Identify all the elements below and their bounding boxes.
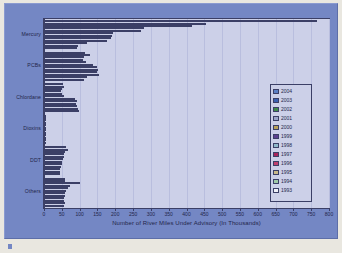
- x-tick-label-0: 0: [43, 211, 46, 217]
- x-tick-label-300: 300: [147, 211, 155, 217]
- y-axis-label-ddt: DDT: [5, 157, 41, 163]
- legend-item-1996[interactable]: 1996: [273, 159, 309, 168]
- legend-swatch-icon: [273, 98, 279, 103]
- x-tick-label-250: 250: [129, 211, 137, 217]
- legend-item-1998[interactable]: 1998: [273, 141, 309, 150]
- legend-swatch-icon: [273, 134, 279, 139]
- legend-swatch-icon: [273, 125, 279, 130]
- legend-label: 2004: [281, 89, 292, 94]
- legend-item-2000[interactable]: 2000: [273, 123, 309, 132]
- legend-label: 2003: [281, 98, 292, 103]
- x-axis-title: Number of River Miles Under Advisory (In…: [43, 220, 330, 226]
- x-axis-ticks: 0501001502002503003504004505005506006507…: [43, 209, 330, 219]
- bar: [44, 142, 46, 144]
- y-axis-label-chlordane: Chlordane: [5, 94, 41, 100]
- bar: [44, 205, 64, 207]
- y-axis-category-labels: MercuryPCBsChlordaneDioxinsDDTOthers: [5, 18, 41, 209]
- legend-swatch-icon: [273, 170, 279, 175]
- legend-swatch-icon: [273, 143, 279, 148]
- legend-swatch-icon: [273, 116, 279, 121]
- legend-swatch-icon: [273, 107, 279, 112]
- x-tick-label-100: 100: [75, 211, 83, 217]
- legend-label: 2002: [281, 107, 292, 112]
- legend-label: 1994: [281, 179, 292, 184]
- x-tick-label-600: 600: [254, 211, 262, 217]
- y-axis-label-others: Others: [5, 188, 41, 194]
- legend-item-2004[interactable]: 2004: [273, 87, 309, 96]
- x-tick-label-550: 550: [236, 211, 244, 217]
- legend-item-2001[interactable]: 2001: [273, 114, 309, 123]
- legend-label: 1997: [281, 152, 292, 157]
- legend-swatch-icon: [273, 89, 279, 94]
- y-axis-label-pcbs: PCBs: [5, 62, 41, 68]
- legend-swatch-icon: [273, 152, 279, 157]
- chart-legend: 2004200320022001200019991998199719961995…: [270, 84, 312, 202]
- legend-item-1995[interactable]: 1995: [273, 168, 309, 177]
- y-axis-label-dioxins: Dioxins: [5, 125, 41, 131]
- legend-item-1993[interactable]: 1993: [273, 186, 309, 195]
- gridline-800: [329, 19, 330, 208]
- legend-swatch-icon: [273, 179, 279, 184]
- legend-swatch-icon: [273, 188, 279, 193]
- legend-item-1997[interactable]: 1997: [273, 150, 309, 159]
- x-tick-label-750: 750: [307, 211, 315, 217]
- x-tick-label-350: 350: [165, 211, 173, 217]
- legend-item-1994[interactable]: 1994: [273, 177, 309, 186]
- bar: [44, 79, 84, 81]
- x-tick-label-700: 700: [289, 211, 297, 217]
- legend-item-2003[interactable]: 2003: [273, 96, 309, 105]
- legend-label: 2001: [281, 116, 292, 121]
- legend-label: 1999: [281, 134, 292, 139]
- legend-item-2002[interactable]: 2002: [273, 105, 309, 114]
- bar-group: [44, 51, 329, 83]
- y-axis-label-mercury: Mercury: [5, 31, 41, 37]
- x-tick-label-50: 50: [59, 211, 65, 217]
- chart-figure: MercuryPCBsChlordaneDioxinsDDTOthers 050…: [4, 3, 338, 239]
- legend-label: 1996: [281, 161, 292, 166]
- legend-item-1999[interactable]: 1999: [273, 132, 309, 141]
- legend-label: 1993: [281, 188, 292, 193]
- bar: [44, 173, 60, 175]
- bar-group: [44, 19, 329, 51]
- x-tick-label-450: 450: [200, 211, 208, 217]
- bar: [44, 47, 77, 49]
- legend-swatch-icon: [273, 161, 279, 166]
- x-tick-label-650: 650: [271, 211, 279, 217]
- legend-label: 1995: [281, 170, 292, 175]
- x-tick-label-800: 800: [325, 211, 333, 217]
- x-tick-label-200: 200: [111, 211, 119, 217]
- legend-label: 2000: [281, 125, 292, 130]
- x-tick-label-150: 150: [93, 211, 101, 217]
- x-tick-label-500: 500: [218, 211, 226, 217]
- legend-label: 1998: [281, 143, 292, 148]
- bar: [44, 110, 79, 112]
- page-corner-mark: [8, 244, 12, 249]
- x-tick-label-400: 400: [182, 211, 190, 217]
